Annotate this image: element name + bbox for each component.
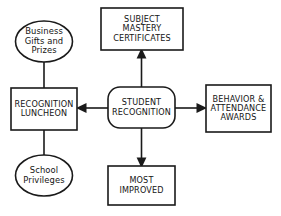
node-shape-subject-mastery-certificates[interactable] (101, 8, 183, 50)
node-shape-most-improved[interactable] (108, 166, 175, 205)
diagram-graphics-layer (0, 0, 281, 216)
diagram-canvas: SUBJECT MASTERY CERTIFICATES BEHAVIOR & … (0, 0, 281, 216)
node-shape-student-recognition[interactable] (108, 87, 175, 128)
node-shape-business-gifts-and-prizes[interactable] (16, 21, 73, 62)
node-shape-behavior-attendance-awards[interactable] (206, 85, 271, 132)
node-shape-recognition-luncheon[interactable] (11, 88, 77, 130)
node-shape-school-privileges[interactable] (16, 155, 73, 196)
